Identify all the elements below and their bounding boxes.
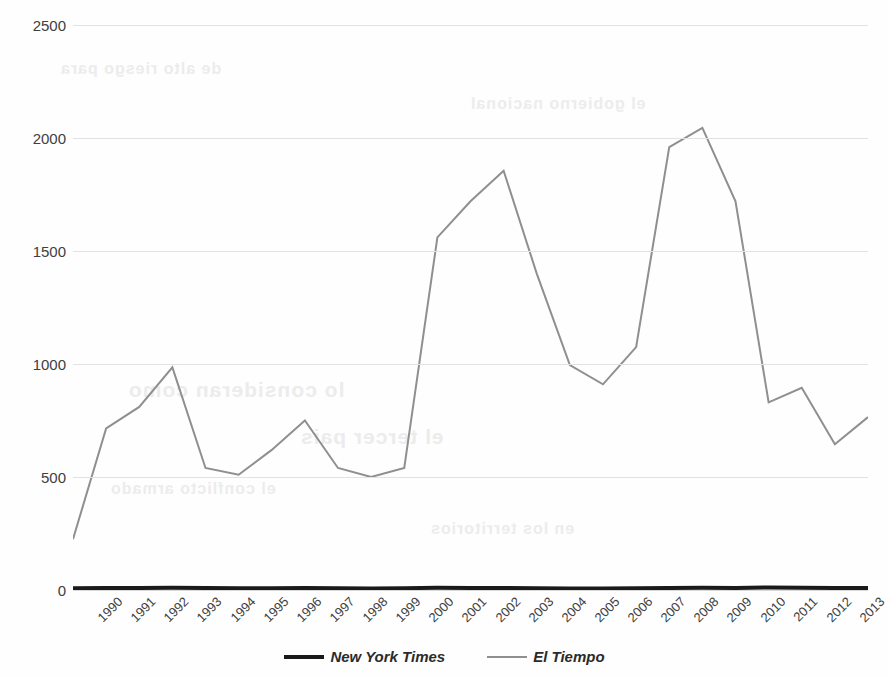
- legend-swatch-line-icon: [284, 655, 324, 659]
- x-axis-tick-label: 2013: [856, 594, 887, 625]
- legend-item-el-tiempo[interactable]: El Tiempo: [487, 648, 604, 665]
- x-axis-tick-label: 1992: [161, 594, 192, 625]
- y-axis: 05001000150020002500: [0, 25, 66, 590]
- legend-label: El Tiempo: [533, 648, 604, 665]
- x-axis: 1990199119921993199419951996199719981999…: [73, 594, 868, 642]
- x-axis-tick-label: 1993: [194, 594, 225, 625]
- x-axis-tick-label: 2009: [724, 594, 755, 625]
- y-axis-tick-label: 0: [4, 582, 66, 599]
- chart-legend: New York Times El Tiempo: [0, 648, 889, 665]
- series-line-new-york-times: [73, 588, 868, 589]
- gridline: [73, 590, 868, 591]
- gridline: [73, 25, 868, 26]
- y-axis-tick-label: 500: [4, 469, 66, 486]
- y-axis-tick-label: 2000: [4, 130, 66, 147]
- y-axis-tick-label: 2500: [4, 17, 66, 34]
- y-axis-tick-label: 1500: [4, 243, 66, 260]
- x-axis-tick-label: 2008: [691, 594, 722, 625]
- legend-item-new-york-times[interactable]: New York Times: [284, 648, 445, 665]
- x-axis-tick-label: 2005: [591, 594, 622, 625]
- x-axis-tick-label: 1998: [359, 594, 390, 625]
- legend-label: New York Times: [330, 648, 445, 665]
- x-axis-tick-label: 2001: [459, 594, 490, 625]
- x-axis-tick-label: 1995: [260, 594, 291, 625]
- y-axis-tick-label: 1000: [4, 356, 66, 373]
- x-axis-tick-label: 2007: [658, 594, 689, 625]
- gridline: [73, 477, 868, 478]
- x-axis-tick-label: 2012: [823, 594, 854, 625]
- series-lines: [73, 25, 868, 590]
- x-axis-tick-label: 2003: [525, 594, 556, 625]
- x-axis-tick-label: 2010: [757, 594, 788, 625]
- gridline: [73, 251, 868, 252]
- x-axis-tick-label: 1996: [293, 594, 324, 625]
- plot-area: [73, 25, 868, 590]
- x-axis-tick-label: 2011: [790, 594, 820, 624]
- x-axis-tick-label: 2004: [558, 594, 589, 625]
- x-axis-tick-label: 1994: [227, 594, 258, 625]
- x-axis-tick-label: 2000: [426, 594, 457, 625]
- gridline: [73, 138, 868, 139]
- chart-container: de alto riesgo para el gobierno nacional…: [0, 0, 889, 678]
- x-axis-tick-label: 2002: [492, 594, 523, 625]
- x-axis-tick-label: 1997: [326, 594, 357, 625]
- x-axis-tick-label: 1999: [393, 594, 424, 625]
- legend-swatch-line-icon: [487, 656, 527, 658]
- gridline: [73, 364, 868, 365]
- x-axis-tick-label: 2006: [624, 594, 655, 625]
- x-axis-tick-label: 1990: [94, 594, 125, 625]
- x-axis-tick-label: 1991: [128, 594, 159, 625]
